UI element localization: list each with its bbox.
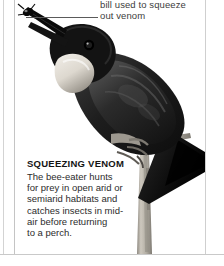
caption-body: The bee-eater hunts for prey in open ari… — [27, 171, 125, 238]
caption-line-3: semiarid habitats and — [27, 193, 125, 204]
caption-block: SQUEEZING VENOM The bee-eater hunts for … — [27, 158, 125, 238]
column-rule-left-outer — [3, 0, 4, 254]
caption-line-1: The bee-eater hunts — [27, 171, 125, 182]
column-rule-right — [205, 0, 206, 254]
bill-callout-line-1: bill used to squeeze — [100, 0, 212, 11]
illustration-page: bill used to squeeze out venom SQUEEZING… — [0, 0, 224, 266]
callout-leader-line — [26, 17, 98, 18]
caption-line-2: for prey in open arid or — [27, 182, 125, 193]
bill-callout-line-2: out venom — [100, 11, 212, 22]
caption-line-5: air before returning — [27, 216, 125, 227]
caption-title: SQUEEZING VENOM — [27, 158, 125, 169]
caption-line-4: catches insects in mid- — [27, 205, 125, 216]
column-rule-bottom — [0, 254, 224, 255]
bill-callout-text: bill used to squeeze out venom — [100, 0, 212, 21]
caption-line-6: to a perch. — [27, 227, 125, 238]
